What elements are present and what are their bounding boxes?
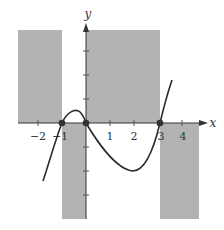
x-tick-label: 3 — [158, 130, 165, 143]
y-axis-label: y — [84, 7, 92, 21]
x-tick-label: −2 — [30, 130, 46, 143]
shade-0-3-above — [86, 30, 160, 123]
zero-point-neg1 — [59, 120, 66, 127]
x-axis-arrow-icon — [199, 120, 208, 126]
shade-left-above — [18, 30, 62, 123]
x-tick-label: 1 — [107, 130, 114, 143]
x-tick-label: 4 — [180, 130, 187, 143]
zero-point-0 — [83, 120, 90, 127]
shaded-regions — [18, 30, 199, 219]
x-axis-label: x — [210, 116, 217, 130]
zero-point-3 — [157, 120, 164, 127]
chart: −2 −1 1 2 3 4 x y — [0, 0, 224, 230]
x-tick-labels: −2 −1 1 2 3 4 — [30, 130, 187, 143]
y-axis-arrow-icon — [83, 23, 89, 32]
x-tick-label: −1 — [52, 130, 68, 143]
x-tick-label: 2 — [131, 130, 138, 143]
